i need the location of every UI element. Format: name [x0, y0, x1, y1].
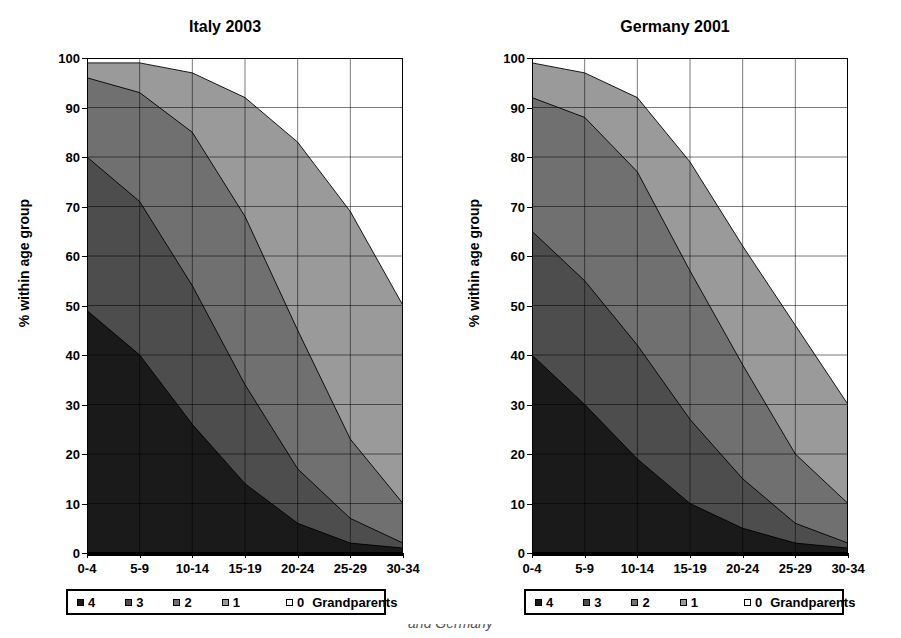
y-tick-label-italy: 90: [40, 101, 80, 114]
legend-item-4-italy[interactable]: 4: [77, 596, 95, 609]
legend-italy: 43210Grandparents: [66, 589, 386, 615]
x-tick-mark-italy: [403, 553, 404, 558]
x-tick-mark-germany: [848, 553, 849, 558]
y-tick-label-italy: 70: [40, 200, 80, 213]
y-tick-label-italy: 40: [40, 349, 80, 362]
legend-item-2-germany[interactable]: 2: [631, 596, 649, 609]
x-tick-mark-italy: [298, 553, 299, 558]
plot-area-italy: 01020304050607080901000-45-910-1415-1920…: [87, 58, 403, 553]
legend-item-1-italy[interactable]: 1: [222, 596, 240, 609]
y-axis-label-italy: % within age group: [16, 163, 32, 363]
y-tick-mark-italy: [82, 306, 87, 307]
legend-unit-label-germany: Grandparents: [770, 595, 855, 610]
y-tick-label-germany: 70: [485, 200, 525, 213]
x-tick-label-italy: 10-14: [176, 562, 209, 575]
legend-item-0-italy[interactable]: 0: [286, 596, 304, 609]
x-tick-label-italy: 0-4: [78, 562, 97, 575]
y-tick-label-germany: 10: [485, 497, 525, 510]
legend-swatch-icon-4-italy: [77, 599, 84, 606]
y-tick-label-germany: 60: [485, 250, 525, 263]
y-tick-mark-germany: [527, 207, 532, 208]
y-tick-mark-italy: [82, 157, 87, 158]
y-tick-label-italy: 50: [40, 299, 80, 312]
y-tick-mark-italy: [82, 504, 87, 505]
chart-panel-italy: Italy 2003 % within age group 0102030405…: [0, 0, 450, 638]
x-tick-label-italy: 5-9: [130, 562, 149, 575]
y-tick-mark-germany: [527, 454, 532, 455]
y-axis-label-germany: % within age group: [466, 163, 482, 363]
y-tick-label-germany: 80: [485, 151, 525, 164]
legend-item-3-italy[interactable]: 3: [125, 596, 143, 609]
y-tick-mark-italy: [82, 108, 87, 109]
legend-label-germany: 2: [642, 596, 649, 609]
y-tick-label-italy: 80: [40, 151, 80, 164]
x-tick-mark-italy: [350, 553, 351, 558]
legend-item-4-germany[interactable]: 4: [535, 596, 553, 609]
legend-swatch-icon-4-germany: [535, 599, 542, 606]
legend-swatch-icon-1-germany: [680, 599, 687, 606]
y-tick-mark-italy: [82, 405, 87, 406]
y-tick-mark-germany: [527, 157, 532, 158]
legend-label-germany: 3: [594, 596, 601, 609]
y-tick-mark-italy: [82, 207, 87, 208]
legend-swatch-icon-1-italy: [222, 599, 229, 606]
y-tick-label-italy: 10: [40, 497, 80, 510]
legend-item-0-germany[interactable]: 0: [744, 596, 762, 609]
y-tick-label-germany: 30: [485, 398, 525, 411]
legend-unit-label-italy: Grandparents: [312, 595, 397, 610]
legend-label-italy: 4: [88, 596, 95, 609]
y-tick-label-germany: 50: [485, 299, 525, 312]
legend-item-1-germany[interactable]: 1: [680, 596, 698, 609]
y-tick-mark-germany: [527, 58, 532, 59]
x-tick-mark-germany: [795, 553, 796, 558]
legend-swatch-icon-3-germany: [583, 599, 590, 606]
chart-panel-germany: Germany 2001 % within age group 01020304…: [450, 0, 900, 638]
x-tick-label-germany: 5-9: [575, 562, 594, 575]
legend-swatch-icon-0-italy: [286, 599, 293, 606]
y-tick-mark-italy: [82, 355, 87, 356]
x-tick-label-italy: 30-34: [386, 562, 419, 575]
y-tick-label-germany: 100: [485, 52, 525, 65]
x-tick-mark-germany: [585, 553, 586, 558]
legend-label-germany: 4: [546, 596, 553, 609]
y-tick-mark-germany: [527, 256, 532, 257]
legend-label-germany: 1: [691, 596, 698, 609]
x-tick-label-germany: 10-14: [621, 562, 654, 575]
y-tick-mark-italy: [82, 58, 87, 59]
y-tick-label-italy: 20: [40, 448, 80, 461]
y-tick-mark-germany: [527, 306, 532, 307]
y-tick-label-italy: 60: [40, 250, 80, 263]
x-tick-label-italy: 25-29: [334, 562, 367, 575]
x-tick-mark-italy: [245, 553, 246, 558]
area-chart-italy: [87, 58, 403, 553]
x-tick-label-germany: 20-24: [726, 562, 759, 575]
legend-label-italy: 2: [184, 596, 191, 609]
y-tick-mark-germany: [527, 504, 532, 505]
x-tick-mark-germany: [743, 553, 744, 558]
y-tick-mark-germany: [527, 405, 532, 406]
legend-swatch-icon-3-italy: [125, 599, 132, 606]
x-tick-mark-germany: [690, 553, 691, 558]
y-tick-label-italy: 30: [40, 398, 80, 411]
legend-label-italy: 3: [136, 596, 143, 609]
x-tick-mark-germany: [637, 553, 638, 558]
plot-area-germany: 01020304050607080901000-45-910-1415-1920…: [532, 58, 848, 553]
caption-cutoff-strip: and Germany: [0, 624, 901, 638]
chart-title-germany: Germany 2001: [450, 18, 900, 36]
legend-item-3-germany[interactable]: 3: [583, 596, 601, 609]
x-tick-mark-germany: [532, 553, 533, 558]
y-tick-label-germany: 0: [485, 547, 525, 560]
legend-item-2-italy[interactable]: 2: [173, 596, 191, 609]
y-tick-label-italy: 100: [40, 52, 80, 65]
x-tick-label-italy: 20-24: [281, 562, 314, 575]
legend-label-germany: 0: [755, 596, 762, 609]
y-tick-mark-germany: [527, 355, 532, 356]
legend-germany: 43210Grandparents: [524, 589, 844, 615]
legend-swatch-icon-0-germany: [744, 599, 751, 606]
y-tick-mark-italy: [82, 454, 87, 455]
x-tick-mark-italy: [192, 553, 193, 558]
y-tick-label-germany: 40: [485, 349, 525, 362]
x-tick-label-italy: 15-19: [228, 562, 261, 575]
x-tick-label-germany: 25-29: [779, 562, 812, 575]
x-tick-mark-italy: [140, 553, 141, 558]
